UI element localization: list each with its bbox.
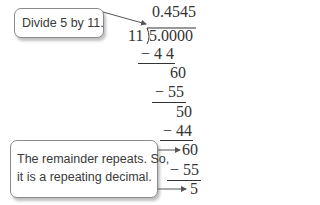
step-remainder-50: 50 bbox=[176, 103, 192, 121]
step-subtract-44-first: − 4 4 bbox=[141, 45, 174, 63]
dividend: 5.0000 bbox=[149, 27, 193, 45]
step-remainder-60-first: 60 bbox=[170, 64, 186, 82]
step-subtract-55-second: − 55 bbox=[170, 161, 199, 179]
step-remainder-5-final: 5 bbox=[190, 180, 198, 198]
step-remainder-60-repeat: 60 bbox=[182, 141, 198, 159]
step-subtract-44-second: − 44 bbox=[163, 122, 192, 140]
step-subtract-55-first: − 55 bbox=[155, 83, 184, 101]
quotient: 0.4545 bbox=[152, 3, 196, 21]
divisor: 11 bbox=[128, 27, 143, 45]
arrow-to-quotient-icon bbox=[103, 12, 146, 24]
